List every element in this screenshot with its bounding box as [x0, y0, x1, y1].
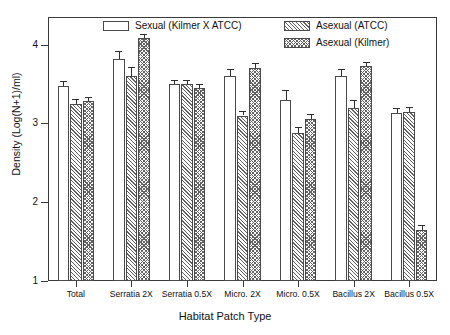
error-bar-cap	[227, 69, 234, 70]
bar	[169, 84, 181, 281]
error-bar-cap	[171, 80, 178, 81]
error-bar-cap	[196, 84, 203, 85]
x-axis-tick-label: Bacillus 0.5X	[369, 290, 449, 299]
y-axis-tick	[41, 123, 48, 124]
bar	[348, 108, 360, 281]
error-bar-cap	[128, 67, 135, 68]
bar	[194, 88, 206, 281]
x-axis-tick	[354, 281, 355, 287]
x-axis-tick	[76, 281, 77, 287]
legend-swatch	[284, 38, 310, 48]
error-bar	[131, 67, 132, 76]
y-axis-tick	[41, 202, 48, 203]
y-axis-tick-label: 2	[4, 197, 38, 207]
error-bar-cap	[282, 90, 289, 91]
x-axis-tick	[243, 281, 244, 287]
legend-swatch	[103, 21, 129, 31]
legend-swatch	[284, 21, 310, 31]
x-axis-tick	[131, 281, 132, 287]
figure-bar-chart: Density (Log(N+1)/ml) 1234 Sexual (Kilme…	[0, 0, 450, 335]
plot-area	[48, 17, 437, 281]
bar	[305, 119, 317, 281]
bar	[113, 59, 125, 281]
y-axis-tick	[41, 45, 48, 46]
error-bar	[354, 100, 355, 108]
error-bar-cap	[393, 108, 400, 109]
bar	[83, 101, 95, 281]
y-axis-tick-label: 1	[4, 276, 38, 286]
legend-label: Sexual (Kilmer X ATCC)	[135, 20, 242, 32]
y-axis-tick-label: 4	[4, 40, 38, 50]
error-bar	[286, 90, 287, 99]
bar	[335, 76, 347, 281]
error-bar-cap	[60, 81, 67, 82]
bar	[403, 112, 415, 281]
x-axis-tick	[409, 281, 410, 287]
bar	[58, 86, 70, 281]
x-axis-title: Habitat Patch Type	[0, 310, 450, 322]
error-bar-cap	[418, 225, 425, 226]
error-bar-cap	[363, 62, 370, 63]
x-axis-tick	[298, 281, 299, 287]
bar	[126, 76, 138, 281]
chart-legend: Sexual (Kilmer X ATCC)Asexual (ATCC)Asex…	[48, 17, 437, 55]
error-bar-cap	[72, 99, 79, 100]
bar	[70, 104, 82, 281]
bar	[249, 68, 261, 281]
error-bar-cap	[239, 111, 246, 112]
error-bar-cap	[350, 100, 357, 101]
legend-label: Asexual (Kilmer)	[316, 37, 389, 49]
bar	[416, 230, 428, 281]
error-bar-cap	[307, 114, 314, 115]
error-bar	[341, 69, 342, 76]
bar	[237, 116, 249, 281]
bar	[224, 76, 236, 281]
bar	[391, 113, 403, 281]
bar	[138, 38, 150, 281]
error-bar-cap	[183, 80, 190, 81]
y-axis-tick	[41, 281, 48, 282]
error-bar	[230, 69, 231, 76]
legend-label: Asexual (ATCC)	[316, 20, 388, 32]
error-bar-cap	[85, 97, 92, 98]
bar	[360, 66, 372, 281]
bar	[280, 100, 292, 281]
error-bar-cap	[338, 69, 345, 70]
bar	[292, 133, 304, 281]
error-bar-cap	[295, 127, 302, 128]
error-bar-cap	[252, 63, 259, 64]
y-axis-tick-label: 3	[4, 118, 38, 128]
error-bar-cap	[406, 107, 413, 108]
bar	[181, 84, 193, 281]
x-axis-tick	[187, 281, 188, 287]
